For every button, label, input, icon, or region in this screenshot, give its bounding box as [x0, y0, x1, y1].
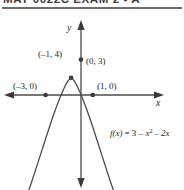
label-y-intercept: (0, 3): [86, 56, 106, 66]
point-y-intercept: [79, 57, 84, 62]
x-axis-label: x: [155, 98, 161, 108]
svg-text:f(x)= 3 –x2– 2x: f(x)= 3 –x2– 2x: [110, 127, 170, 138]
label-x-intercept-right: (1, 0): [97, 81, 117, 91]
point-x-intercept-left: [43, 93, 48, 98]
fn-exponent: 2: [150, 127, 153, 134]
cutoff-header-text: MAT 0022C EXAM 2 - A: [3, 0, 140, 5]
fn-arg: (x): [113, 128, 123, 138]
label-x-intercept-left: (–3, 0): [13, 81, 37, 91]
point-x-intercept-right: [91, 93, 96, 98]
y-axis-label: y: [66, 23, 72, 33]
cutoff-header-strip: MAT 0022C EXAM 2 - A: [0, 0, 184, 7]
parabola-figure: y x (–1, 4) (0, 3) (–3, 0) (1, 0) f(x)= …: [0, 9, 184, 190]
fn-equals: = 3 –: [125, 128, 144, 138]
figure-page: MAT 0022C EXAM 2 - A: [0, 0, 184, 190]
parabola-plot: y x (–1, 4) (0, 3) (–3, 0) (1, 0) f(x)= …: [0, 9, 184, 190]
x-axis-left-arrow-icon: [4, 91, 14, 98]
y-axis-up-arrow-icon: [77, 20, 84, 30]
label-vertex: (–1, 4): [38, 49, 62, 59]
function-equation-label: f(x)= 3 –x2– 2x: [110, 127, 170, 138]
point-vertex: [69, 76, 74, 81]
fn-term-last: – 2x: [153, 128, 169, 138]
y-axis-down-arrow-icon: [77, 178, 84, 188]
